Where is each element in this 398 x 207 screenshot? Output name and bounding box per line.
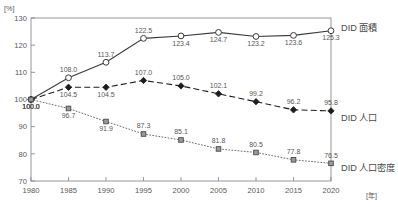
data-point-value-label: 123.2	[247, 40, 265, 47]
x-axis-tick-label: 1995	[135, 186, 152, 195]
x-axis-tick-label: 2000	[173, 186, 190, 195]
data-point-marker	[291, 158, 296, 163]
y-axis-tick-label: 130	[14, 14, 27, 23]
data-point-value-label: 104.5	[97, 91, 115, 98]
y-axis-tick-label: 70	[19, 177, 27, 186]
legend-item-did-area: DID 面積	[341, 22, 377, 33]
data-point-marker	[329, 161, 334, 166]
x-axis-tick-label: 2005	[210, 186, 227, 195]
x-axis-tick-label: 2015	[285, 186, 302, 195]
data-point-marker	[254, 150, 259, 155]
x-axis-tick-label: 1985	[60, 186, 77, 195]
data-point-marker	[179, 138, 184, 143]
data-point-marker	[328, 108, 334, 114]
data-point-value-label: 87.3	[137, 122, 151, 129]
legend-item-did-population-density: DID 人口密度	[341, 162, 395, 173]
data-point-value-label: 108.0	[60, 66, 78, 73]
data-point-marker	[104, 119, 109, 124]
data-point-value-label: 77.8	[287, 148, 301, 155]
data-point-marker	[178, 33, 184, 39]
data-point-value-label: 107.0	[135, 69, 153, 76]
data-point-value-label: 104.5	[60, 91, 78, 98]
data-point-value-label: 125.3	[322, 34, 340, 41]
data-point-value-label: 105.0	[172, 74, 190, 81]
data-point-value-label: 123.4	[172, 40, 190, 47]
data-point-marker	[290, 107, 296, 113]
y-axis-tick-label: 80	[19, 150, 27, 159]
data-point-value-label: 102.1	[210, 82, 228, 89]
data-point-marker	[141, 132, 146, 137]
data-point-marker	[253, 34, 259, 40]
data-point-value-label: 124.7	[210, 36, 228, 43]
y-axis-tick-label: 110	[15, 68, 27, 77]
x-axis-ticks: 198019851990199520002005201020152020	[23, 177, 340, 195]
data-point-marker	[216, 147, 221, 152]
data-point-marker	[103, 84, 109, 90]
x-axis-tick-label: 1980	[23, 186, 40, 195]
data-point-marker	[178, 83, 184, 89]
data-point-marker	[103, 59, 109, 65]
data-point-value-label: 80.5	[249, 141, 263, 148]
x-axis-tick-label: 2020	[323, 186, 340, 195]
data-point-value-label: 91.9	[99, 125, 113, 132]
data-point-value-label: 81.8	[212, 137, 226, 144]
data-point-marker	[215, 91, 221, 97]
x-axis-unit-label: [年]	[366, 191, 377, 200]
data-point-value-label: 113.7	[98, 51, 115, 58]
data-point-value-label: 96.7	[62, 112, 76, 119]
data-point-marker	[291, 32, 297, 38]
data-point-marker	[216, 29, 222, 35]
x-axis-tick-label: 2010	[248, 186, 265, 195]
data-point-value-label: 99.2	[249, 90, 263, 97]
data-point-marker	[66, 75, 72, 81]
x-axis-tick-label: 1990	[98, 186, 115, 195]
data-point-marker	[140, 77, 146, 83]
line-chart: 708090100110120130 198019851990199520002…	[0, 0, 398, 207]
data-point-value-label: 100.0	[22, 103, 40, 110]
data-point-value-label: 123.6	[285, 39, 303, 46]
data-point-marker	[66, 106, 71, 111]
data-point-value-label: 85.1	[174, 128, 188, 135]
data-point-marker	[29, 97, 34, 102]
data-point-marker	[65, 84, 71, 90]
chart-container: 708090100110120130 198019851990199520002…	[0, 0, 398, 207]
data-point-value-label: 96.2	[287, 98, 301, 105]
data-point-value-label: 76.5	[324, 152, 338, 159]
y-axis-tick-label: 120	[14, 41, 27, 50]
data-point-marker	[328, 28, 334, 34]
data-point-value-label: 122.5	[135, 27, 153, 34]
y-axis-unit-label: [%]	[4, 4, 14, 13]
data-point-marker	[141, 35, 147, 41]
data-point-marker	[253, 98, 259, 104]
data-point-value-label: 95.8	[324, 99, 338, 106]
legend-item-did-population: DID 人口	[341, 113, 377, 123]
y-axis-tick-label: 90	[19, 122, 27, 131]
